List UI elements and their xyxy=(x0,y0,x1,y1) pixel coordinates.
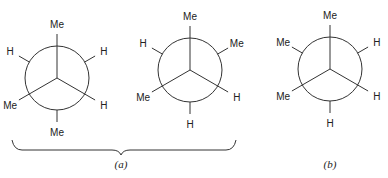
back-substituent-upper-right: H xyxy=(373,37,380,48)
front-substituent-up: Me xyxy=(183,11,197,22)
front-substituent-lower-right: H xyxy=(233,92,240,103)
newman-projection-a2: MeHMeMeHH xyxy=(136,11,244,130)
front-substituent-up: Me xyxy=(323,10,337,21)
newman-diagram: MeHMeHMeH MeHMeMeHH MeHMeHHMe (a) (b) xyxy=(0,0,388,178)
front-substituent-lower-right: H xyxy=(373,91,380,102)
front-bond-lower-right xyxy=(330,69,368,91)
front-bond-lower-right xyxy=(190,70,228,92)
back-bond-upper-right xyxy=(358,47,368,53)
back-substituent-down: Me xyxy=(50,127,64,138)
front-substituent-up: Me xyxy=(50,19,64,30)
front-substituent-lower-left: Me xyxy=(136,92,150,103)
back-substituent-down: H xyxy=(186,119,193,130)
newman-projection-b: MeHMeHHMe xyxy=(276,10,380,129)
back-bond-upper-right xyxy=(85,56,95,62)
back-substituent-upper-left: H xyxy=(7,46,14,57)
group-brace xyxy=(12,140,236,155)
back-substituent-upper-left: H xyxy=(140,38,147,49)
back-bond-upper-left xyxy=(152,48,162,54)
back-bond-upper-left xyxy=(19,56,29,62)
front-bond-lower-left xyxy=(292,69,330,91)
back-substituent-upper-left: Me xyxy=(276,37,290,48)
back-bond-upper-left xyxy=(292,47,302,53)
front-substituent-lower-right: H xyxy=(100,100,107,111)
back-bond-upper-right xyxy=(218,48,228,54)
front-substituent-lower-left: Me xyxy=(276,91,290,102)
back-substituent-upper-right: Me xyxy=(230,38,244,49)
front-bond-lower-right xyxy=(57,78,95,100)
front-bond-lower-left xyxy=(19,78,57,100)
back-substituent-down: H xyxy=(326,118,333,129)
caption-b: (b) xyxy=(324,158,337,171)
front-substituent-lower-left: Me xyxy=(3,100,17,111)
back-substituent-upper-right: H xyxy=(100,46,107,57)
newman-projection-a1: MeHMeHMeH xyxy=(3,19,107,138)
caption-a: (a) xyxy=(115,158,128,171)
front-bond-lower-left xyxy=(152,70,190,92)
